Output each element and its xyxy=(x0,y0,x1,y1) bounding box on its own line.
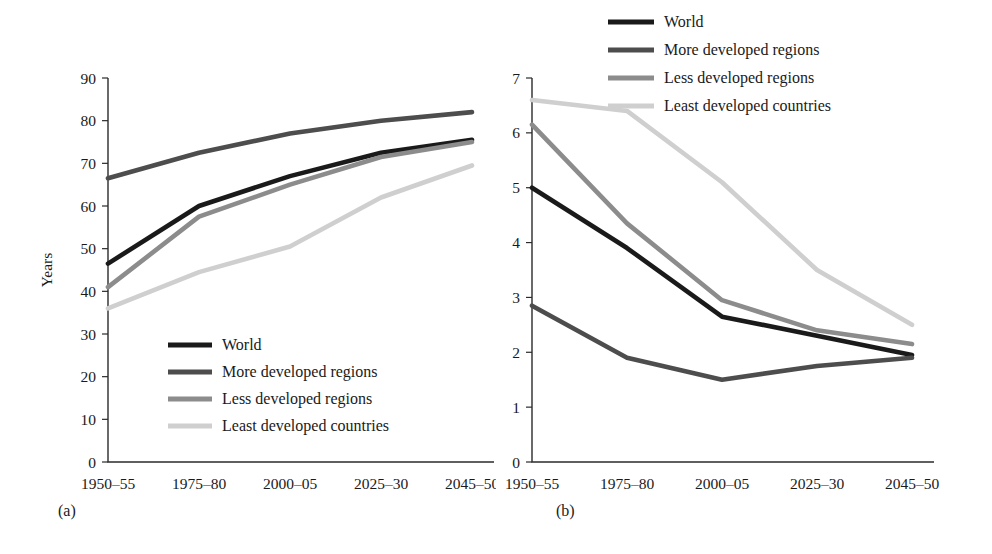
x-axis-tick-label: 2045–50 xyxy=(445,475,496,492)
series-line-world xyxy=(532,188,912,355)
y-axis-tick-label: 0 xyxy=(88,454,96,471)
y-axis-tick-label: 50 xyxy=(81,240,97,257)
y-axis-tick-label: 0 xyxy=(512,454,520,471)
y-axis-title: Years xyxy=(38,253,55,288)
y-axis-tick-label: 20 xyxy=(81,368,97,385)
y-axis-tick-label: 2 xyxy=(512,344,520,361)
x-axis-tick-label: 2000–05 xyxy=(263,475,318,492)
figure-root: 01020304050607080901950–551975–802000–05… xyxy=(0,0,992,554)
y-axis-tick-label: 4 xyxy=(512,234,520,251)
legend-label-world: World xyxy=(664,13,704,30)
y-axis-tick-label: 7 xyxy=(512,70,520,87)
y-axis-tick-label: 30 xyxy=(81,326,97,343)
series-line-less-developed-regions xyxy=(532,125,912,344)
x-axis-tick-label: 2045–50 xyxy=(885,475,940,492)
x-axis-tick-label: 1950–55 xyxy=(505,475,560,492)
chart-panel-a: 01020304050607080901950–551975–802000–05… xyxy=(0,0,496,554)
legend-label-more-developed-regions: More developed regions xyxy=(664,41,820,59)
y-axis-tick-label: 5 xyxy=(512,179,520,196)
y-axis-tick-label: 3 xyxy=(512,289,520,306)
x-axis-tick-label: 2025–30 xyxy=(354,475,409,492)
x-axis-tick-label: 2025–30 xyxy=(790,475,845,492)
legend-label-least-developed-countries: Least developed countries xyxy=(222,417,389,435)
x-axis-tick-label: 1975–80 xyxy=(600,475,655,492)
y-axis-tick-label: 1 xyxy=(512,399,520,416)
series-line-more-developed-regions xyxy=(108,112,472,178)
y-axis-tick-label: 40 xyxy=(81,283,97,300)
chart-b-svg: 012345671950–551975–802000–052025–302045… xyxy=(496,0,992,554)
series-line-least-developed-countries xyxy=(532,100,912,325)
y-axis-tick-label: 80 xyxy=(81,112,97,129)
y-axis-tick-label: 90 xyxy=(81,70,97,87)
legend-label-world: World xyxy=(222,336,262,353)
legend-label-less-developed-regions: Less developed regions xyxy=(222,390,372,408)
y-axis-tick-label: 70 xyxy=(81,155,97,172)
chart-panel-b: 012345671950–551975–802000–052025–302045… xyxy=(496,0,992,554)
x-axis-tick-label: 1950–55 xyxy=(81,475,136,492)
legend-label-least-developed-countries: Least developed countries xyxy=(664,97,831,115)
x-axis-tick-label: 2000–05 xyxy=(695,475,750,492)
legend-label-more-developed-regions: More developed regions xyxy=(222,363,378,381)
y-axis-tick-label: 60 xyxy=(81,198,97,215)
y-axis-tick-label: 10 xyxy=(81,411,97,428)
legend-label-less-developed-regions: Less developed regions xyxy=(664,69,814,87)
axis-spine xyxy=(532,78,934,462)
y-axis-tick-label: 6 xyxy=(512,124,520,141)
chart-a-svg: 01020304050607080901950–551975–802000–05… xyxy=(0,0,496,554)
x-axis-tick-label: 1975–80 xyxy=(172,475,227,492)
